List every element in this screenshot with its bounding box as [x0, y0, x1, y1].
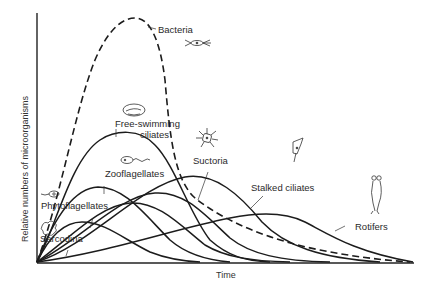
leader-rotifers — [335, 226, 345, 231]
rotifer-icon — [371, 176, 381, 214]
leader-bacteria — [148, 27, 156, 29]
label-zooflagellates: Zooflagellates — [105, 168, 164, 179]
leader-sarcodina — [66, 250, 68, 256]
free-swimming-ciliate-icon — [123, 104, 145, 116]
label-suctoria: Suctoria — [193, 155, 229, 166]
succession-chart: Bacteria Free-swimming ciliates Zooflage… — [0, 0, 436, 286]
stalked-ciliate-icon — [293, 138, 303, 162]
bacterium-icon — [185, 40, 211, 46]
label-stalked-ciliates: Stalked ciliates — [251, 182, 315, 193]
label-free-swimming-2: ciliates — [140, 129, 169, 140]
label-rotifers: Rotifers — [355, 221, 388, 232]
zooflagellate-icon — [121, 157, 150, 164]
y-axis-title: Relative numbers of microorganisms — [20, 95, 30, 242]
label-phytoflagellates: Phytoflagellates — [41, 200, 108, 211]
leader-stalked — [251, 196, 263, 208]
suctorian-icon — [196, 128, 218, 147]
x-axis-title: Time — [216, 270, 236, 280]
label-free-swimming-1: Free-swimming — [115, 118, 180, 129]
label-bacteria: Bacteria — [158, 24, 194, 35]
